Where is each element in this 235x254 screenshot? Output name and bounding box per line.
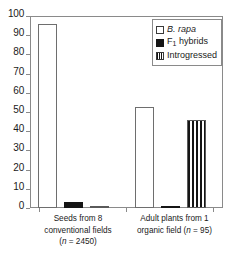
x-group-label-2: Adult plants from 1 organic field (n = 9… bbox=[126, 213, 223, 236]
y-tick-label: 50 bbox=[13, 105, 24, 115]
x-group1-line2: conventional fields bbox=[30, 225, 126, 237]
y-tick-label: 80 bbox=[13, 47, 24, 57]
legend-entry-introgressed: Introgressed bbox=[156, 49, 217, 62]
bar-group2-introgressed bbox=[187, 120, 206, 208]
legend-label-f1-hybrids: F1 hybrids bbox=[167, 37, 208, 48]
y-tick-label: 100 bbox=[8, 9, 24, 19]
x-group1-line3: (n = 2450) bbox=[30, 236, 126, 248]
y-tick-label: 60 bbox=[13, 86, 24, 96]
filled-square-swatch-icon bbox=[156, 39, 164, 47]
legend-label-introgressed: Introgressed bbox=[167, 51, 217, 60]
y-tick-label: 0 bbox=[19, 201, 24, 211]
x-tick-right bbox=[213, 208, 214, 212]
y-tick-label: 70 bbox=[13, 67, 24, 77]
legend-entry-f1-hybrids: F1 hybrids bbox=[156, 36, 217, 49]
legend-label-b-rapa: B. rapa bbox=[167, 25, 196, 34]
x-group2-line2-prefix: organic field ( bbox=[137, 226, 186, 235]
y-tick-label: 30 bbox=[13, 143, 24, 153]
x-group-label-1: Seeds from 8 conventional fields (n = 24… bbox=[30, 213, 126, 248]
x-group1-line1: Seeds from 8 bbox=[30, 213, 126, 225]
legend-f1-suffix: hybrids bbox=[176, 36, 208, 46]
x-tick-middle bbox=[126, 208, 127, 212]
x-group2-line2-suffix: = 95) bbox=[191, 226, 212, 235]
y-axis: 100 90 80 70 60 50 40 30 bbox=[0, 16, 30, 208]
y-tick-label: 10 bbox=[13, 182, 24, 192]
legend-entry-b-rapa: B. rapa bbox=[156, 23, 217, 36]
y-tick-label: 40 bbox=[13, 124, 24, 134]
striped-square-swatch-icon bbox=[156, 52, 164, 60]
y-tick-label: 20 bbox=[13, 163, 24, 173]
open-square-swatch-icon bbox=[156, 26, 164, 34]
x-group1-line3-suffix: = 2450) bbox=[67, 237, 97, 246]
y-tick-label: 90 bbox=[13, 28, 24, 38]
bar-group2-b-rapa bbox=[135, 107, 154, 208]
x-group2-line2: organic field (n = 95) bbox=[126, 225, 223, 237]
bar-group1-b-rapa bbox=[38, 24, 57, 208]
x-tick-left bbox=[39, 208, 40, 212]
x-group2-line1: Adult plants from 1 bbox=[126, 213, 223, 225]
x-axis-labels: Seeds from 8 conventional fields (n = 24… bbox=[30, 213, 223, 254]
bar-chart-figure: 100 90 80 70 60 50 40 30 bbox=[0, 0, 235, 254]
legend: B. rapa F1 hybrids Introgressed bbox=[152, 19, 222, 66]
